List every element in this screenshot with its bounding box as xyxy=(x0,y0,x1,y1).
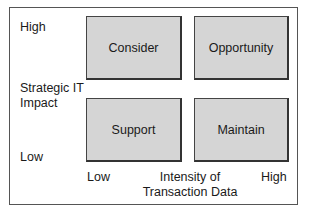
quadrant-label: Consider xyxy=(108,41,158,55)
quadrant-consider: Consider xyxy=(86,16,182,80)
y-axis-high-label: High xyxy=(20,20,46,35)
x-axis-low-label: Low xyxy=(87,170,110,185)
quadrant-label: Support xyxy=(112,123,156,137)
quadrant-support: Support xyxy=(86,98,182,162)
quadrant-maintain: Maintain xyxy=(194,98,289,162)
quadrant-opportunity: Opportunity xyxy=(194,16,289,80)
quadrant-label: Opportunity xyxy=(209,41,274,55)
y-axis-low-label: Low xyxy=(20,150,43,165)
x-axis-title-line1: Intensity of xyxy=(140,170,240,185)
x-axis-high-label: High xyxy=(261,170,287,185)
y-axis-title-line1: Strategic IT xyxy=(20,81,84,96)
y-axis-title-line2: Impact xyxy=(20,96,58,111)
x-axis-title-line2: Transaction Data xyxy=(140,185,240,200)
quadrant-label: Maintain xyxy=(217,123,264,137)
